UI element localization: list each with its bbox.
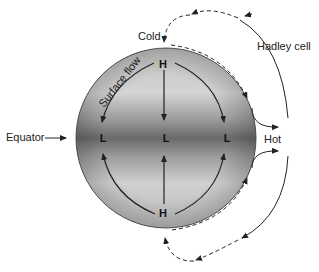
pressure-low-right: L	[224, 132, 231, 144]
hot-label: Hot	[264, 133, 281, 145]
pressure-high-north: H	[159, 58, 167, 70]
pressure-low-center: L	[163, 132, 170, 144]
equator-label: Equator	[6, 131, 45, 143]
pressure-high-south: H	[159, 207, 167, 219]
hadley-cell-diagram: H H L L L Surface flow Cold Hot Hadley c…	[0, 0, 319, 272]
cold-label: Cold	[138, 30, 161, 42]
pressure-low-left: L	[100, 132, 107, 144]
hadley-cell-label: Hadley cell	[257, 40, 311, 52]
